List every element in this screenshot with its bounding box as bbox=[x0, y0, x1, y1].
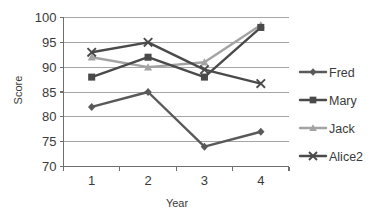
square-marker bbox=[145, 54, 152, 61]
x-tick-label: 2 bbox=[144, 173, 151, 188]
legend-item-mary[interactable]: Mary bbox=[300, 94, 358, 108]
x-tick-label: 1 bbox=[88, 173, 95, 188]
square-marker bbox=[201, 74, 208, 81]
y-tick-label: 80 bbox=[42, 109, 56, 124]
series-group bbox=[87, 21, 265, 151]
x-axis bbox=[64, 167, 290, 172]
legend-item-alice2[interactable]: Alice2 bbox=[300, 150, 363, 164]
x-tick-labels: 1234 bbox=[88, 173, 264, 188]
x-axis-title: Year bbox=[166, 197, 189, 209]
legend-label: Mary bbox=[329, 94, 358, 108]
legend-label: Fred bbox=[329, 66, 355, 80]
square-marker bbox=[310, 97, 317, 104]
series-line bbox=[92, 27, 261, 77]
y-tick-labels: 707580859095100 bbox=[35, 10, 57, 174]
diamond-marker bbox=[310, 68, 317, 76]
legend: FredMaryJackAlice2 bbox=[300, 66, 363, 164]
legend-item-fred[interactable]: Fred bbox=[300, 66, 355, 80]
y-tick-label: 70 bbox=[42, 159, 56, 174]
series-alice2 bbox=[87, 38, 265, 88]
legend-item-jack[interactable]: Jack bbox=[300, 122, 355, 136]
chart-canvas: 707580859095100 1234 Score Year FredMary… bbox=[0, 0, 385, 216]
diamond-marker bbox=[88, 103, 95, 111]
series-line bbox=[92, 92, 261, 147]
y-axis bbox=[60, 18, 64, 167]
y-tick-label: 75 bbox=[42, 134, 56, 149]
y-tick-label: 90 bbox=[42, 60, 56, 75]
y-tick-label: 85 bbox=[42, 85, 56, 100]
x-tickmarks bbox=[64, 167, 290, 172]
series-jack bbox=[88, 21, 265, 70]
legend-label: Alice2 bbox=[329, 150, 363, 164]
y-axis-title: Score bbox=[12, 76, 24, 105]
y-tick-label: 100 bbox=[35, 10, 57, 25]
gridlines bbox=[64, 18, 290, 167]
y-tick-label: 95 bbox=[42, 35, 56, 50]
series-mary bbox=[88, 24, 264, 81]
square-marker bbox=[88, 74, 95, 81]
x-tick-label: 4 bbox=[257, 173, 264, 188]
square-marker bbox=[257, 24, 264, 31]
series-line bbox=[92, 25, 261, 67]
diamond-marker bbox=[257, 128, 264, 136]
x-tick-label: 3 bbox=[201, 173, 208, 188]
line-chart: 707580859095100 1234 Score Year FredMary… bbox=[0, 0, 385, 216]
legend-label: Jack bbox=[329, 122, 355, 136]
